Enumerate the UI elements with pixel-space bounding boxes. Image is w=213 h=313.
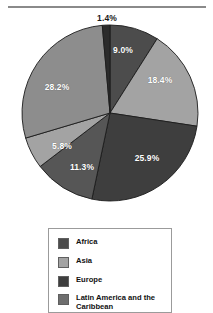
legend-item-label: Africa xyxy=(76,237,98,246)
pie-chart-figure: 9.0%18.4%25.9%11.3%5.8%28.2%1.4% AfricaA… xyxy=(0,0,213,313)
legend-color-swatch xyxy=(58,238,69,249)
pie-slice-group xyxy=(22,25,198,201)
legend-item-label: Asia xyxy=(76,256,92,265)
legend-color-swatch xyxy=(58,276,69,287)
legend-color-swatch xyxy=(58,294,69,305)
pie-slice-value-label: 5.8% xyxy=(52,141,72,151)
legend-item[interactable]: Latin America and the Caribbean xyxy=(58,293,168,311)
pie-slice-value-label: 18.4% xyxy=(148,75,173,85)
pie-slice-value-label: 25.9% xyxy=(135,153,160,163)
pie-slice-value-label: 1.4% xyxy=(97,13,117,23)
pie-slice-value-label: 28.2% xyxy=(45,82,70,92)
pie-slice-value-label: 11.3% xyxy=(70,162,94,172)
legend-item[interactable]: Africa xyxy=(58,237,98,249)
legend-item[interactable]: Asia xyxy=(58,256,92,268)
pie-chart-area: 9.0%18.4%25.9%11.3%5.8%28.2%1.4% xyxy=(0,0,213,215)
legend-item[interactable]: Europe xyxy=(58,275,102,287)
legend-item-label: Europe xyxy=(76,275,102,284)
legend-color-swatch xyxy=(58,257,69,268)
chart-legend: AfricaAsiaEuropeLatin America and the Ca… xyxy=(48,228,172,313)
pie-graphic xyxy=(0,0,213,215)
pie-slice-value-label: 9.0% xyxy=(113,45,133,55)
legend-item-label: Latin America and the Caribbean xyxy=(76,293,168,311)
